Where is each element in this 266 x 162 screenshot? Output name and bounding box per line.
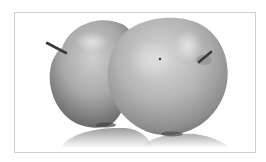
- photo-frame: [14, 12, 256, 153]
- reflection: [60, 128, 230, 148]
- apples-photo: [14, 12, 256, 153]
- right-apple: [108, 18, 228, 137]
- photo-stage: [0, 0, 266, 162]
- faint-caption: [0, 153, 266, 162]
